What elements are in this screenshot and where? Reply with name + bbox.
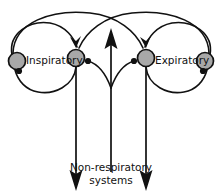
inspiratory-label: Inspiratory <box>26 54 83 66</box>
inner-right-neuron <box>138 50 155 67</box>
synapse-dot-outer-left <box>16 68 22 74</box>
caption-line-1: Non-respiratory <box>70 161 152 173</box>
arc-outer-right-to-inner-left <box>79 12 209 53</box>
synapse-dot-outer-right <box>200 68 206 74</box>
arc-inner-left-to-midline <box>88 61 111 88</box>
arc-outer-left-to-inner-right <box>13 12 143 53</box>
synapse-dot-inner-right-left <box>131 58 137 64</box>
expiratory-label: Expiratory <box>155 54 209 66</box>
arc-right-lower <box>146 67 207 93</box>
outer-left-neuron <box>9 53 26 70</box>
arc-right-upper <box>145 23 210 55</box>
arc-inner-right-to-midline <box>111 61 134 88</box>
caption-line-2: systems <box>89 174 132 186</box>
arc-left-lower <box>15 67 76 93</box>
synapse-dot-inner-left-right <box>85 58 91 64</box>
circuit-svg-canvas: Inspiratory Expiratory Non-respiratory s… <box>0 0 222 196</box>
respiratory-circuit-diagram: Inspiratory Expiratory Non-respiratory s… <box>0 0 222 196</box>
arc-left-upper <box>12 23 77 55</box>
